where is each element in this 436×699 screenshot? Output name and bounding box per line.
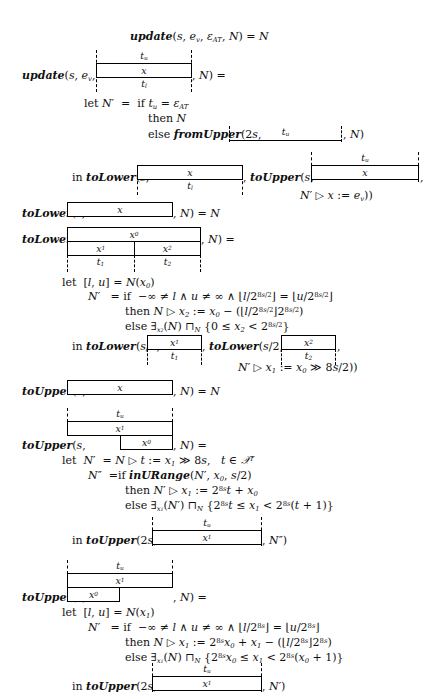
- fn-toUpper: toUpper: [22, 385, 72, 398]
- box-x: x: [96, 63, 192, 78]
- fn-toUpper: toUpper: [86, 680, 136, 693]
- diagram-toUpper-rec2: tu x1 x0: [67, 560, 173, 605]
- label-t-u: tu: [67, 409, 173, 420]
- cell-x2: x2: [134, 242, 201, 255]
- box-x: x: [67, 380, 173, 395]
- diagram-fromUpper-tu: tu: [229, 126, 342, 142]
- equation-update-in-tail: N′ ▷ x := ev)): [300, 190, 373, 203]
- equation-update-in-mid: , toUpper(s,: [243, 172, 314, 183]
- fn-update: update: [22, 69, 65, 82]
- equation-toUpper-let2-then: then N ▷ x1 := 28sx0 + x1 − (⌊l/28s⌋28s): [125, 637, 332, 650]
- diagram-toUpper-in1: tu x1: [152, 517, 262, 546]
- diagram-toUpper-base: x: [67, 380, 173, 395]
- box-x1: x1: [152, 530, 262, 545]
- fn-toUpper: toUpper: [22, 591, 72, 604]
- fn-toUpper: toUpper: [86, 534, 136, 547]
- box-x1: x1: [152, 676, 262, 691]
- label-t2: t2: [134, 257, 201, 268]
- equation-update-rec-rhs: , N) =: [192, 70, 226, 81]
- equation-update-let-then: then N: [148, 113, 186, 124]
- fn-inURange: inURange: [129, 469, 190, 482]
- box-x1: x1: [147, 335, 202, 350]
- label-t-l: tl: [96, 79, 192, 90]
- equation-fromUpper-tail: , N): [343, 129, 364, 140]
- diagram-toUpper-tu-x: tu x: [311, 152, 419, 182]
- fn-toLower: toLower: [22, 233, 72, 246]
- equation-update-base: update(s, ev, εAT, N) = N: [130, 31, 269, 44]
- equation-toUpper-let1-Ndprime: N″ =if inURange(N′, x0, s/2): [88, 470, 252, 483]
- equation-toLower-in-tail: N′ ▷ x1 := x0 ≫ 8s/2)): [238, 362, 358, 375]
- box-x1: x1: [67, 573, 173, 588]
- equation-toLower-let-Nprime: N′ = if −∞ ≠ l ∧ u ≠ ∞ ∧ ⌊l/28s/2⌋ = ⌊u/…: [88, 291, 333, 302]
- equation-toUpper-rec1-suffix: , N) =: [173, 440, 207, 451]
- equation-toUpper-let1-Nprime: let N′ = N ▷ t := x1 ≫ 8s, t ∈ 𝒳T: [62, 455, 254, 468]
- diagram-toUpper-rec1: tu x1 x0: [67, 408, 173, 453]
- box-x: x: [137, 165, 243, 180]
- region-baseline: [229, 140, 342, 141]
- equation-update-rec-lhs: update(s, ev,: [22, 70, 95, 83]
- equation-toLower-let-else: else ∃x2(N) ⊓N {0 ≤ x2 < 28s/2}: [125, 321, 289, 334]
- equation-toLower-base-suffix: , N) = N: [173, 208, 220, 219]
- equation-toUpper-let2-lu: let [l, u] = N(x1): [62, 607, 155, 620]
- box-x: x: [311, 165, 419, 180]
- label-t-u: tu: [96, 51, 192, 62]
- diagram-toUpper-in2: tu x1: [152, 663, 262, 692]
- equation-toLower-rec-suffix: , N) =: [201, 234, 235, 245]
- cell-x1: x1: [68, 242, 134, 255]
- box-x0: x0: [67, 227, 201, 242]
- box-x1-x2: x1 x2: [67, 241, 201, 256]
- equation-toUpper-in1-suffix: , N″): [262, 535, 287, 546]
- label-t-u: tu: [152, 664, 262, 675]
- equation-toUpper-let1-then: then N′ ▷ x1 := 28st + x0: [125, 485, 258, 498]
- equation-toLower-let-lu: let [l, u] = N(x0): [62, 277, 155, 290]
- label-t-u: tu: [67, 561, 173, 572]
- label-t-u: tu: [152, 518, 262, 529]
- equation-toUpper-rec2-suffix: , N) =: [173, 592, 207, 603]
- equation-update-let-1: let N′ = if tu = εAT: [84, 98, 188, 111]
- box-x: x: [67, 202, 173, 217]
- box-x2: x2: [281, 335, 336, 350]
- equation-page: update(s, ev, εAT, N) = N update(s, ev, …: [0, 0, 436, 699]
- equation-update-in-suffix: ,: [420, 172, 424, 183]
- fn-toLower: toLower: [86, 171, 136, 184]
- fn-toUpper: toUpper: [22, 439, 72, 452]
- diagram-update-rec: tu x tl: [96, 50, 192, 92]
- diagram-toLower-x1: x1 t1: [147, 335, 202, 365]
- label-t-l: tl: [137, 181, 243, 192]
- fn-toUpper: toUpper: [250, 171, 300, 184]
- equation-toUpper-base-suffix: , N) = N: [173, 386, 220, 397]
- equation-toUpper-in2-prefix: in toUpper(2s,: [72, 681, 157, 692]
- box-x1: x1: [67, 421, 173, 436]
- label-t1: t1: [147, 351, 202, 362]
- fn-toLower: toLower: [86, 340, 136, 353]
- equation-toLower-in-suffix: ,: [337, 341, 341, 352]
- diagram-toLower-base: x: [67, 202, 173, 217]
- equation-toUpper-in1-prefix: in toUpper(2s,: [72, 535, 157, 546]
- equation-toLower-let-then: then N ▷ x2 := x0 − (⌊l/28s/2⌋28s/2): [125, 306, 303, 319]
- box-x0: x0: [67, 587, 120, 602]
- diagram-toLower-x-tl: x tl: [137, 165, 243, 195]
- box-x0: x0: [120, 435, 173, 450]
- label-t1: t1: [67, 257, 134, 268]
- label-t-u: tu: [229, 127, 342, 138]
- label-t-u: tu: [311, 153, 419, 164]
- equation-toUpper-let2-Nprime: N′ = if −∞ ≠ l ∧ u ≠ ∞ ∧ ⌊l/28s⌋ = ⌊u/28…: [88, 622, 320, 633]
- fn-toLower: toLower: [209, 340, 259, 353]
- equation-toUpper-in2-suffix: , N′): [262, 681, 285, 692]
- fn-update: update: [130, 30, 173, 43]
- diagram-toLower-rec: x0 x1 x2 t1 t2: [67, 227, 201, 272]
- fn-toLower: toLower: [22, 207, 72, 220]
- equation-toUpper-let1-else: else ∃x1(N′) ⊓N {28st ≤ x1 < 28s(t + 1)}: [125, 500, 334, 513]
- equation-toLower-in-mid: , toLower(s/2,: [202, 341, 283, 352]
